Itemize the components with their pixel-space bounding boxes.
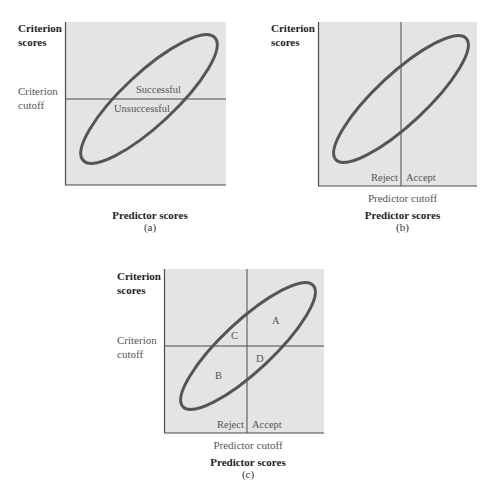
panel-c-quadrant-d-label: D [256,353,264,365]
panel-c-reject-label: Reject [217,419,244,431]
panel-c-accept-label: Accept [252,419,282,431]
panel-c-plot [0,0,501,493]
panel-c-caption: (c) [188,467,308,481]
panel-c-predictor-cutoff-label: Predictor cutoff [188,438,308,452]
panel-c-quadrant-c-label: C [231,330,238,342]
panel-c-quadrant-a-label: A [272,315,280,327]
panel-c-quadrant-b-label: B [215,370,222,382]
